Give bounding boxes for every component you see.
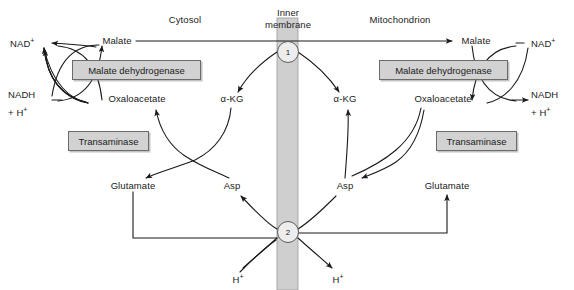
mito-nadh-proton-text: + H	[531, 107, 546, 118]
cytosol-nad-text: NAD	[10, 38, 30, 49]
mito-transaminase-box: Transaminase	[436, 131, 517, 151]
region-label-mitochondrion: Mitochondrion	[370, 14, 431, 25]
inner-membrane-label: Inner membrane	[265, 7, 311, 30]
mito-malate-label: Malate	[461, 35, 490, 46]
cytosol-oxaloacetate-label: Oxaloacetate	[108, 93, 165, 104]
mito-nadh-label: NADH	[531, 89, 558, 100]
mito-malate-dehydrogenase-box: Malate dehydrogenase	[379, 60, 508, 80]
mito-proton-text: H	[332, 274, 339, 285]
mito-oxaloacetate-label: Oxaloacetate	[414, 93, 471, 104]
carrier2-asp-out-arc	[241, 196, 277, 229]
cytosol-malate-dehydrogenase-box: Malate dehydrogenase	[72, 60, 201, 80]
transporter-2-label: 2	[286, 228, 290, 237]
cytosol-nadh-text: NADH	[8, 89, 35, 100]
mito-asp-to-akg-curve	[345, 110, 348, 178]
mito-glutamate-return-path	[298, 195, 447, 233]
cytosol-nadh-proton-text: + H	[8, 107, 23, 118]
carrier1-to-cytosol-akg-arc	[238, 52, 277, 92]
cytosol-proton-label: H+	[232, 271, 243, 285]
malate-aspartate-shuttle-diagram: Cytosol Inner membrane Mitochondrion NAD…	[0, 0, 574, 290]
carrier2-asp-to-cytosol-arc	[298, 196, 336, 229]
cytosol-nadh-label: NADH	[8, 89, 35, 100]
cytosol-alpha-kg-label: α-KG	[221, 93, 244, 104]
mito-nad-text: NAD	[531, 38, 551, 49]
cytosol-transaminase-label: Transaminase	[79, 136, 139, 147]
mito-malate-dehydrogenase-label: Malate dehydrogenase	[395, 65, 492, 76]
mito-nad-plus-label: NAD+	[531, 35, 556, 49]
mito-asp-label: Asp	[337, 180, 354, 191]
mito-oxaloacetate-to-glutamate-curve	[362, 110, 424, 178]
cytosol-proton-input-line	[240, 240, 276, 272]
transporter-1: 1	[277, 41, 299, 63]
cytosol-asp-to-oxaloacetate-curve	[156, 110, 229, 178]
mito-glutamate-feed-curve	[352, 108, 421, 176]
carrier1-to-mito-akg-arc	[298, 52, 339, 92]
cytosol-malate-dehydrogenase-label: Malate dehydrogenase	[88, 65, 185, 76]
transporter-1-label: 1	[286, 48, 290, 57]
cytosol-malate-label: Malate	[102, 35, 131, 46]
cytosol-nad-charge: +	[30, 37, 34, 44]
mito-proton-label: H+	[332, 271, 343, 285]
cytosol-glutamate-return-path	[133, 192, 277, 238]
mito-alpha-kg-label: α-KG	[334, 93, 357, 104]
mito-nadh-text: NADH	[531, 89, 558, 100]
inner-membrane-label-line2: membrane	[265, 19, 311, 30]
transporter-2: 2	[277, 221, 299, 243]
carrier2-proton-in-arc	[298, 238, 332, 268]
cytosol-nadh-proton-label: + H+	[8, 104, 28, 118]
cytosol-glutamate-label: Glutamate	[111, 180, 156, 191]
inner-membrane-label-line1: Inner	[277, 7, 299, 18]
mito-proton-charge: +	[339, 273, 343, 280]
mito-transaminase-label: Transaminase	[447, 136, 507, 147]
cytosol-nad-plus-label: NAD+	[10, 35, 35, 49]
mito-nadh-proton-label: + H+	[531, 104, 551, 118]
mito-nadh-proton-charge: +	[546, 106, 550, 113]
cytosol-akg-to-glutamate-curve	[146, 108, 231, 178]
cytosol-transaminase-box: Transaminase	[68, 131, 149, 151]
cytosol-proton-charge: +	[239, 273, 243, 280]
cytosol-asp-label: Asp	[224, 180, 241, 191]
cytosol-proton-text: H	[232, 274, 239, 285]
mito-glutamate-label: Glutamate	[425, 180, 470, 191]
region-label-cytosol: Cytosol	[169, 14, 201, 25]
cytosol-nadh-proton-charge: +	[23, 106, 27, 113]
mito-nad-charge: +	[551, 37, 555, 44]
